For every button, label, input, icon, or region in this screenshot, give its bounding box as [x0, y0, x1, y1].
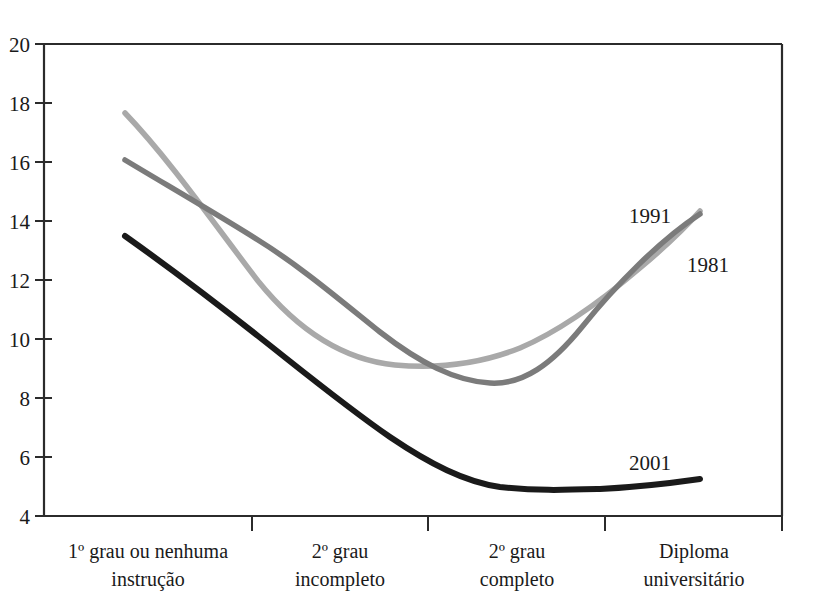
x-category-label-1-line2: instrução [111, 568, 184, 591]
series-paths [125, 113, 700, 490]
series-line-1981 [125, 160, 700, 383]
y-tick-label-4: 4 [20, 505, 31, 529]
line-chart: 20 18 16 14 12 10 8 6 4 1991 1981 2 [0, 0, 818, 610]
axis-frame [44, 44, 782, 516]
y-axis-tick-labels: 20 18 16 14 12 10 8 6 4 [9, 33, 31, 529]
series-label-1981: 1981 [687, 253, 729, 277]
y-tick-label-10: 10 [9, 328, 30, 352]
series-labels: 1991 1981 2001 [629, 204, 729, 475]
y-tick-label-16: 16 [9, 151, 30, 175]
series-line-2001 [125, 236, 700, 490]
y-tick-label-6: 6 [20, 446, 31, 470]
x-category-label-2-line1: 2º grau [312, 540, 369, 563]
chart-canvas: 20 18 16 14 12 10 8 6 4 1991 1981 2 [0, 0, 818, 610]
y-tick-label-18: 18 [9, 92, 30, 116]
x-axis-ticks [252, 516, 782, 531]
x-category-label-4-line1: Diploma [659, 540, 729, 563]
x-axis-category-labels: 1º grau ou nenhuma instrução 2º grau inc… [68, 540, 745, 591]
x-category-label-4-line2: universitário [643, 568, 744, 590]
y-tick-label-20: 20 [9, 33, 30, 57]
y-tick-label-8: 8 [20, 387, 31, 411]
series-label-1991: 1991 [629, 204, 671, 228]
x-category-label-1-line1: 1º grau ou nenhuma [68, 540, 228, 563]
y-tick-label-12: 12 [9, 269, 30, 293]
x-category-label-3-line2: completo [480, 568, 554, 591]
series-line-1991 [125, 113, 700, 366]
y-tick-label-14: 14 [9, 210, 31, 234]
x-category-label-2-line2: incompleto [295, 568, 385, 591]
x-category-label-3-line1: 2º grau [489, 540, 546, 563]
series-label-2001: 2001 [629, 451, 671, 475]
